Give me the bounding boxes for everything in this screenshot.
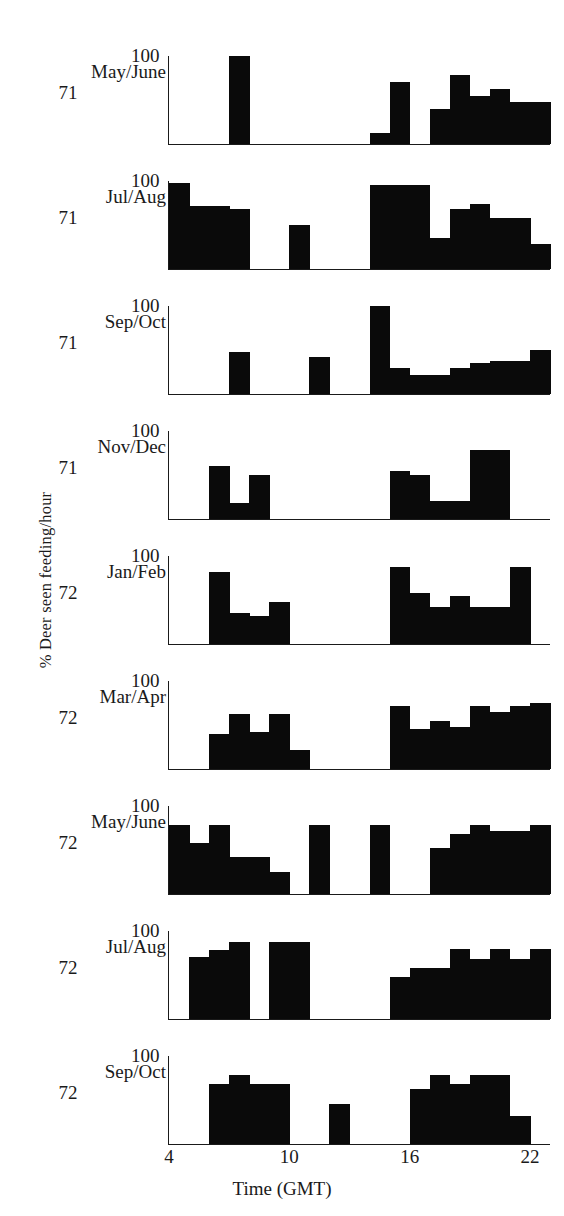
bar xyxy=(510,218,531,269)
panel-sep-oct-72: Sep/Oct72100 xyxy=(0,1024,564,1149)
plot-area xyxy=(169,431,550,519)
bar xyxy=(410,729,431,769)
bar xyxy=(249,857,270,894)
bar-group xyxy=(169,931,550,1019)
bar xyxy=(229,613,250,644)
panel-row-label: May/June72 xyxy=(0,812,166,853)
bar-group xyxy=(169,181,550,269)
bar xyxy=(490,712,511,769)
bar xyxy=(450,1084,471,1144)
bar xyxy=(510,361,531,394)
x-axis-line xyxy=(168,394,550,395)
bar xyxy=(530,244,551,269)
panel-row-label: Nov/Dec71 xyxy=(0,437,166,478)
bar xyxy=(229,857,250,894)
panel-year: 72 xyxy=(0,833,166,854)
bar xyxy=(249,616,270,644)
bar xyxy=(390,368,411,394)
bar xyxy=(510,1116,531,1144)
bar xyxy=(269,872,290,894)
bar-group xyxy=(169,56,550,144)
bar xyxy=(269,942,290,1019)
x-axis-line xyxy=(168,519,550,520)
bar xyxy=(209,1084,230,1144)
bar xyxy=(390,567,411,644)
bar xyxy=(229,714,250,769)
bar-group xyxy=(169,556,550,644)
x-axis-line xyxy=(168,144,550,145)
plot-area xyxy=(169,56,550,144)
bar xyxy=(470,96,491,144)
bar xyxy=(370,825,391,894)
bar xyxy=(510,102,531,144)
bar xyxy=(430,968,451,1019)
bar xyxy=(490,831,511,894)
bar xyxy=(390,706,411,769)
bar xyxy=(470,607,491,644)
panel-year: 71 xyxy=(0,208,166,229)
panel-row-label: Jul/Aug71 xyxy=(0,187,166,228)
bar xyxy=(289,942,310,1019)
bar xyxy=(470,825,491,894)
bar xyxy=(269,602,290,644)
y-axis-top-tick: 100 xyxy=(131,296,160,315)
y-axis-top-tick: 100 xyxy=(131,921,160,940)
bar xyxy=(269,714,290,769)
x-axis-tick-labels: 4101622 xyxy=(0,1146,564,1172)
plot-area xyxy=(169,181,550,269)
bar xyxy=(309,825,330,894)
panel-may-june-71: May/June71100 xyxy=(0,24,564,149)
panel-may-june-72: May/June72100 xyxy=(0,774,564,899)
bar xyxy=(470,959,491,1019)
panel-nov-dec-71: Nov/Dec71100 xyxy=(0,399,564,524)
bar xyxy=(430,238,451,269)
bar xyxy=(370,185,391,269)
x-axis-label: Time (GMT) xyxy=(0,1178,564,1200)
bar xyxy=(189,957,210,1019)
plot-area xyxy=(169,806,550,894)
y-axis-top-tick: 100 xyxy=(131,796,160,815)
x-axis-line xyxy=(168,269,550,270)
y-axis-top-tick: 100 xyxy=(131,421,160,440)
panel-jul-aug-72: Jul/Aug72100 xyxy=(0,899,564,1024)
bar xyxy=(410,968,431,1019)
bar xyxy=(390,82,411,144)
bar xyxy=(390,185,411,269)
bar xyxy=(209,572,230,644)
panel-year: 72 xyxy=(0,1083,166,1104)
bar-group xyxy=(169,1056,550,1144)
bar xyxy=(249,1084,270,1144)
panel-sep-oct-71: Sep/Oct71100 xyxy=(0,274,564,399)
y-axis-top-tick: 100 xyxy=(131,1046,160,1065)
bar xyxy=(490,361,511,394)
y-axis-top-tick: 100 xyxy=(131,546,160,565)
y-axis-top-tick: 100 xyxy=(131,671,160,690)
panel-year: 72 xyxy=(0,708,166,729)
bar xyxy=(289,225,310,269)
panel-jul-aug-71: Jul/Aug71100 xyxy=(0,149,564,274)
bar xyxy=(490,218,511,269)
bar xyxy=(410,375,431,394)
bar xyxy=(370,133,391,144)
plot-area xyxy=(169,681,550,769)
bar xyxy=(490,607,511,644)
panel-year: 71 xyxy=(0,458,166,479)
bar xyxy=(450,727,471,769)
panel-year: 72 xyxy=(0,583,166,604)
panel-year: 71 xyxy=(0,333,166,354)
bar xyxy=(490,1075,511,1144)
panel-row-label: Jul/Aug72 xyxy=(0,937,166,978)
y-axis-top-tick: 100 xyxy=(131,171,160,190)
bar xyxy=(390,471,411,519)
bar xyxy=(470,363,491,394)
bar xyxy=(490,949,511,1019)
bar xyxy=(450,501,471,519)
bar xyxy=(470,450,491,519)
bar xyxy=(490,89,511,144)
bar xyxy=(530,949,551,1019)
bar xyxy=(329,1104,350,1144)
bar xyxy=(510,706,531,769)
plot-area xyxy=(169,931,550,1019)
bar xyxy=(169,825,190,894)
bar xyxy=(169,183,190,269)
